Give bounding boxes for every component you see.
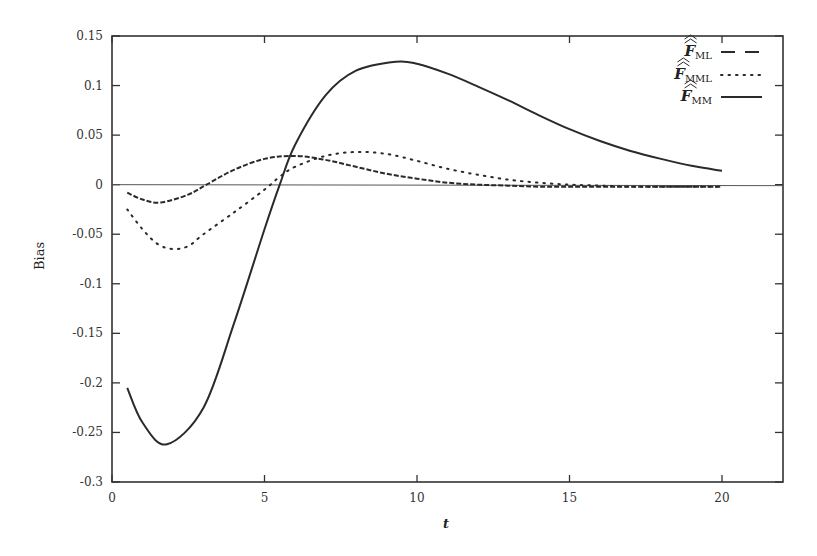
series-lines — [127, 61, 722, 444]
y-tick-label: -0.15 — [72, 326, 103, 340]
y-axis: 0.150.10.050-0.05-0.1-0.15-0.2-0.25-0.3 — [72, 29, 783, 489]
y-tick-label: 0.1 — [84, 79, 103, 93]
x-tick-label: 15 — [562, 491, 577, 505]
y-tick-label: -0.2 — [80, 376, 103, 390]
x-tick-label: 10 — [409, 491, 424, 505]
legend-label-mm: FMM — [680, 87, 712, 106]
x-tick-label: 5 — [261, 491, 269, 505]
y-tick-label: 0.05 — [76, 128, 103, 142]
x-axis: 05101520 — [108, 36, 729, 505]
series-mm-line — [127, 61, 722, 444]
x-tick-label: 20 — [714, 491, 729, 505]
y-tick-label: -0.05 — [72, 227, 103, 241]
x-axis-label: t — [443, 516, 449, 531]
y-tick-label: -0.1 — [80, 277, 103, 291]
series-mml-line — [127, 152, 722, 249]
zero-reference-line — [112, 185, 783, 186]
y-tick-label: -0.3 — [80, 475, 103, 489]
legend-label-ml: FML — [683, 42, 712, 61]
legend: FMLFMMLFMM — [673, 35, 762, 106]
y-tick-label: 0.15 — [76, 29, 103, 43]
y-axis-label: Bias — [32, 242, 47, 270]
x-tick-label: 0 — [108, 491, 116, 505]
y-tick-label: 0 — [95, 178, 103, 192]
bias-chart: 05101520 0.150.10.050-0.05-0.1-0.15-0.2-… — [0, 0, 817, 556]
y-tick-label: -0.25 — [72, 425, 103, 439]
